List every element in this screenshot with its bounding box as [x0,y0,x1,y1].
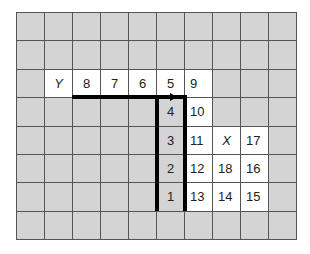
grid-cell-empty [269,183,297,211]
grid-cell-empty [269,155,297,183]
grid-cell-empty [73,155,101,183]
arrow-right-icon [170,93,177,101]
grid-cell-empty [213,41,241,69]
grid-cell-empty [73,98,101,126]
grid-cell-empty [129,13,157,41]
grid-cell-empty [241,13,269,41]
grid-cell-13: 13 [185,183,213,211]
grid-cell-empty [17,127,45,155]
grid-cell-6: 6 [129,70,157,98]
grid-cell-empty [73,183,101,211]
grid-cell-empty [269,212,297,240]
grid-cell-3: 3 [157,127,185,155]
grid-cell-empty [45,212,73,240]
grid-cell-empty [241,41,269,69]
grid-cell-empty [129,98,157,126]
grid-cell-empty [129,155,157,183]
grid-cell-empty [241,70,269,98]
grid-cell-empty [185,41,213,69]
grid-cell-empty [17,212,45,240]
grid-cell-empty [45,183,73,211]
grid-cell-empty [129,127,157,155]
grid-cell-empty [101,183,129,211]
grid-cell-empty [45,41,73,69]
grid-cell-empty [45,98,73,126]
grid-cell-empty [157,41,185,69]
path-horizontal-line [72,95,185,99]
grid-cell-empty [17,155,45,183]
grid-cell-4: 4 [157,98,185,126]
grid-cell-empty [101,41,129,69]
grid-cell-empty [73,127,101,155]
grid-cell-7: 7 [101,70,129,98]
grid-cell-empty [269,70,297,98]
grid-cell-empty [269,13,297,41]
grid-cell-empty [129,183,157,211]
grid-cell-empty [101,212,129,240]
grid-cell-empty [73,212,101,240]
grid-cell-2: 2 [157,155,185,183]
grid-cell-empty [101,127,129,155]
grid-cell-10: 10 [185,98,213,126]
grid-cell-empty [213,70,241,98]
grid-cell-empty [157,212,185,240]
grid-cell-empty [269,127,297,155]
grid-cell-empty [45,127,73,155]
grid-cell-empty [17,183,45,211]
grid-cell-empty [213,212,241,240]
grid-cell-Y: Y [45,70,73,98]
grid-cell-8: 8 [73,70,101,98]
grid-cell-empty [17,41,45,69]
grid-cell-empty [157,13,185,41]
grid-cell-X: X [213,127,241,155]
grid-cell-empty [101,155,129,183]
grid-cell-9: 9 [185,70,213,98]
grid-cell-empty [17,70,45,98]
grid-cell-empty [241,98,269,126]
grid-cell-17: 17 [241,127,269,155]
grid-cell-empty [45,155,73,183]
grid-cell-empty [17,13,45,41]
grid-cell-empty [45,13,73,41]
grid-cell-14: 14 [213,183,241,211]
grid-cell-empty [185,212,213,240]
grid-cell-empty [129,41,157,69]
path-vertical-line-left [155,95,159,211]
grid-cell-11: 11 [185,127,213,155]
grid-cell-empty [213,13,241,41]
path-vertical-line-right [183,95,187,211]
grid-cell-empty [269,98,297,126]
grid-cell-empty [213,98,241,126]
grid-cell-empty [17,98,45,126]
grid-cell-empty [101,13,129,41]
grid-cell-empty [241,212,269,240]
grid-cell-18: 18 [213,155,241,183]
grid-cell-empty [73,41,101,69]
grid-cell-16: 16 [241,155,269,183]
grid-cell-12: 12 [185,155,213,183]
grid-cell-empty [101,98,129,126]
grid-cell-empty [269,41,297,69]
grid-cell-empty [73,13,101,41]
grid-cell-empty [129,212,157,240]
grid-cell-15: 15 [241,183,269,211]
grid-cell-empty [185,13,213,41]
grid-cell-1: 1 [157,183,185,211]
